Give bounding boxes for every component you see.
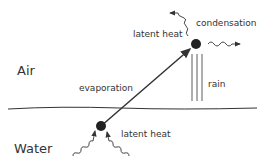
- water-particle-top: [191, 39, 201, 49]
- evaporation-label: evaporation: [79, 83, 133, 93]
- condensation-label: condensation: [196, 18, 257, 28]
- latent-heat-in-arrow-left: [73, 131, 95, 156]
- air-label: Air: [17, 63, 35, 78]
- heat-out-arrow-right: [208, 42, 240, 46]
- water-particle-bottom: [96, 121, 106, 131]
- water-surface-line: [8, 107, 257, 109]
- water-label: Water: [14, 141, 52, 156]
- rain-label: rain: [208, 79, 225, 89]
- latent-heat-top-label: latent heat: [133, 29, 182, 39]
- latent-heat-bottom-label: latent heat: [121, 129, 170, 139]
